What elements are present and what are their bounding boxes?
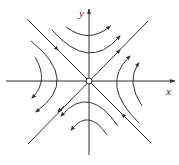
trajectory-left-inner [33,57,42,97]
trajectory-bottom-outer [62,102,118,126]
x-axis-label: x [166,86,171,97]
arrow-icon [123,115,128,120]
phase-portrait [0,0,179,165]
y-axis-label: y [79,8,84,19]
arrow-icon [52,44,57,49]
trajectory-left-outer [31,41,57,111]
arrow-icon [114,51,119,56]
trajectory-top-inner [66,27,109,36]
origin-equilibrium-point [86,78,92,84]
trajectory-right-inner [133,64,142,106]
trajectory-right-outer [117,57,139,123]
trajectory-top-outer [52,30,119,53]
